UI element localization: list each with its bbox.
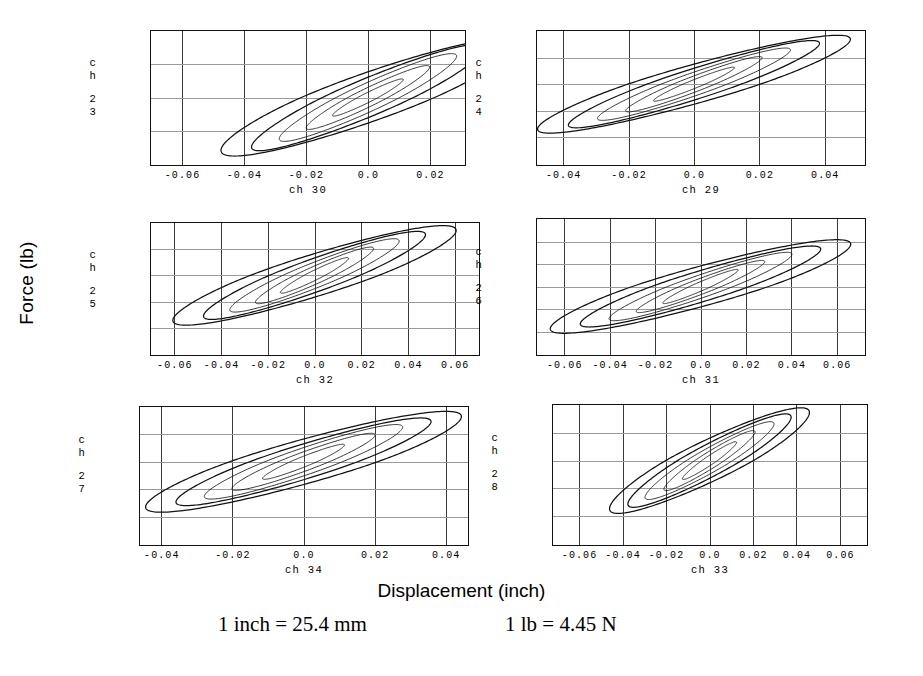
panel-ch29-x-axis-label: ch 29 <box>661 184 741 196</box>
panel-ch30-y-axis-label-char: 2 <box>86 93 100 106</box>
panel-ch31-xtick-label: 0.0 <box>690 360 711 371</box>
panel-ch32-y-axis-label-char: 2 <box>86 285 100 298</box>
panel-ch33-xtick-label: 0.0 <box>699 550 720 561</box>
panel-ch33-hysteresis-curves <box>553 405 866 544</box>
panel-ch34-y-axis-label-char: h <box>75 447 89 460</box>
panel-ch32-y-axis-label-char: h <box>86 262 100 275</box>
panel-ch29-xtick-label: 0.04 <box>811 170 839 181</box>
panel-ch32-xtick-label: 0.0 <box>304 360 325 371</box>
panel-ch32-y-axis-label-char: 5 <box>86 298 100 311</box>
panel-ch31-xtick-label: 0.06 <box>823 360 851 371</box>
panel-ch32-cycle-2 <box>255 247 373 304</box>
panel-ch29-hysteresis-curves <box>537 31 864 164</box>
panel-ch31-y-axis-label-char: 2 <box>472 282 486 295</box>
panel-ch34-y-axis-label-char: c <box>75 434 89 447</box>
panel-ch33-cycle-4 <box>628 414 791 507</box>
footnote-pound-conversion: 1 lb = 4.45 N <box>505 612 617 637</box>
panel-ch34-cycle-5 <box>146 411 462 512</box>
panel-ch31-xtick-label: -0.04 <box>592 360 628 371</box>
panel-ch31-cycle-4 <box>580 246 820 327</box>
panel-ch29-y-axis-label-char: 2 <box>472 93 486 106</box>
panel-ch32-cycle-3 <box>230 239 399 312</box>
panel-ch34-xtick-label: -0.02 <box>215 550 251 561</box>
panel-ch31-xtick-label: -0.02 <box>638 360 674 371</box>
panel-ch32-xtick-label: -0.04 <box>204 360 240 371</box>
panel-ch33-xtick-label: -0.02 <box>649 550 685 561</box>
panel-ch32-cycle-1 <box>280 258 348 294</box>
panel-ch34-xtick-label: 0.0 <box>293 550 314 561</box>
panel-ch29-xtick-label: 0.02 <box>746 170 774 181</box>
panel-ch30-xtick-label: 0.02 <box>416 170 444 181</box>
panel-ch31-cycle-5 <box>550 240 850 334</box>
panel-ch32-cycle-4 <box>204 231 426 319</box>
panel-ch29-xtick-label: -0.04 <box>546 170 582 181</box>
panel-ch32-xtick-label: 0.04 <box>394 360 422 371</box>
panel-ch32-xtick-label: 0.02 <box>348 360 376 371</box>
panel-ch31-plot-area <box>536 218 866 356</box>
panel-ch33-cycle-5 <box>610 408 810 514</box>
panel-ch31-xtick-label: 0.02 <box>732 360 760 371</box>
panel-ch31-y-axis-label-char: 6 <box>472 295 486 308</box>
panel-ch30-hysteresis-curves <box>151 31 464 164</box>
panel-ch30-y-axis-label-char: c <box>86 57 100 70</box>
panel-ch33-y-axis-label-char: 2 <box>488 468 502 481</box>
panel-ch33-xtick-label: 0.02 <box>739 550 767 561</box>
panel-ch33-y-axis-label-char: 8 <box>488 481 502 494</box>
panel-ch32-x-axis-label: ch 32 <box>275 374 355 386</box>
panel-ch30-x-axis-label: ch 30 <box>268 184 348 196</box>
panel-ch34-cycle-2 <box>232 433 375 490</box>
panel-ch30-xtick-label: 0.0 <box>358 170 379 181</box>
panel-ch34-xtick-label: 0.04 <box>432 550 460 561</box>
panel-ch29-xtick-label: 0.0 <box>684 170 705 181</box>
panel-ch34-xtick-label: -0.04 <box>144 550 180 561</box>
panel-ch34-plot-area <box>139 406 469 546</box>
panel-ch33-y-axis-label-char: h <box>488 445 502 458</box>
panel-ch29-cycle-4 <box>568 41 819 128</box>
panel-ch34-cycle-1 <box>263 444 345 479</box>
panel-ch30-y-axis-label: ch23 <box>86 57 100 119</box>
panel-ch30-xtick-label: -0.02 <box>289 170 325 181</box>
panel-ch31-x-axis-label: ch 31 <box>661 374 741 386</box>
panel-ch34-cycle-3 <box>204 425 402 500</box>
panel-ch33-y-axis-label-char: c <box>488 432 502 445</box>
panel-ch31-y-axis-label: ch26 <box>472 246 486 308</box>
panel-ch30-cycle-2 <box>306 66 429 130</box>
panel-ch29-y-axis-label: ch24 <box>472 57 486 119</box>
panel-ch31-y-axis-label-char: h <box>472 259 486 272</box>
panel-ch32-hysteresis-curves <box>151 223 478 354</box>
panel-ch29-y-axis-label-char: 4 <box>472 106 486 119</box>
panel-ch32-xtick-label: 0.06 <box>441 360 469 371</box>
panel-ch33-y-axis-label: ch28 <box>488 432 502 494</box>
panel-ch29-y-axis-label-char: h <box>472 70 486 83</box>
panel-ch34-cycle-4 <box>176 418 431 506</box>
panel-ch30-xtick-label: -0.06 <box>165 170 201 181</box>
figure-y-axis-title: Force (lb) <box>16 198 38 368</box>
panel-ch30-y-axis-label-char: h <box>86 70 100 83</box>
panel-ch33-xtick-label: -0.04 <box>605 550 641 561</box>
panel-ch32-xtick-label: -0.02 <box>251 360 287 371</box>
panel-ch33-xtick-label: 0.04 <box>783 550 811 561</box>
panel-ch29-plot-area <box>536 30 866 166</box>
panel-ch32-xtick-label: -0.06 <box>157 360 193 371</box>
panel-ch29-xtick-label: -0.02 <box>611 170 647 181</box>
panel-ch34-xtick-label: 0.02 <box>361 550 389 561</box>
panel-ch31-cycle-2 <box>636 260 765 312</box>
panel-ch30-cycle-1 <box>333 79 404 116</box>
panel-ch31-xtick-label: 0.04 <box>778 360 806 371</box>
panel-ch29-y-axis-label-char: c <box>472 57 486 70</box>
panel-ch32-plot-area <box>150 222 480 356</box>
panel-ch30-plot-area <box>150 30 466 166</box>
panel-ch30-xtick-label: -0.04 <box>227 170 263 181</box>
panel-ch30-y-axis-label-char: 3 <box>86 106 100 119</box>
panel-ch32-y-axis-label: ch25 <box>86 249 100 311</box>
panel-ch34-y-axis-label: ch27 <box>75 434 89 496</box>
panel-ch31-xtick-label: -0.06 <box>547 360 583 371</box>
panel-ch31-y-axis-label-char: c <box>472 246 486 259</box>
panel-ch33-x-axis-label: ch 33 <box>670 564 750 576</box>
hysteresis-figure: Force (lb) Displacement (inch) 1 inch = … <box>0 0 923 676</box>
panel-ch29-cycle-5 <box>538 35 851 133</box>
footnote-inch-conversion: 1 inch = 25.4 mm <box>218 612 367 637</box>
panel-ch34-y-axis-label-char: 2 <box>75 470 89 483</box>
panel-ch33-plot-area <box>552 404 868 546</box>
panel-ch31-hysteresis-curves <box>537 219 864 354</box>
